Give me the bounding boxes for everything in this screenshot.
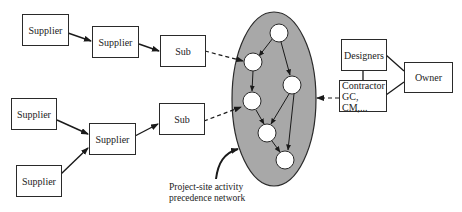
supplier-box: Supplier	[16, 165, 62, 197]
network-node	[243, 92, 261, 110]
network-node	[244, 53, 262, 71]
supplier-box: Supplier	[92, 26, 139, 58]
sub-box: Sub	[159, 103, 205, 135]
supplier-label: Supplier	[17, 109, 51, 120]
sub-label: Sub	[174, 114, 190, 125]
supplier-label: Supplier	[99, 37, 133, 48]
designers-box: Designers	[341, 39, 387, 71]
contractor-label-line1: Contractor	[342, 80, 385, 91]
supplier-box: Supplier	[11, 98, 57, 130]
network-node	[258, 124, 276, 142]
supplier-label: Supplier	[29, 25, 63, 36]
network-node	[270, 24, 288, 42]
contractor-box: Contractor GC, CM,...	[339, 80, 387, 112]
diagram-canvas	[0, 0, 462, 212]
network-caption: Project-site activity precedence network	[169, 182, 245, 204]
supplier-label: Supplier	[96, 134, 130, 145]
designers-label: Designers	[344, 50, 384, 61]
contractor-label-line2: GC, CM,...	[342, 91, 386, 113]
network-caption-line1: Project-site activity	[169, 182, 245, 193]
network-node	[276, 151, 294, 169]
supplier-box: Supplier	[89, 123, 136, 155]
sub-box: Sub	[160, 35, 206, 67]
network-node	[283, 76, 301, 94]
sub-label: Sub	[175, 46, 191, 57]
network-pointer-arrow	[216, 149, 238, 179]
owner-box: Owner	[404, 62, 453, 93]
owner-label: Owner	[415, 72, 442, 83]
network-caption-line2: precedence network	[169, 193, 245, 204]
supplier-label: Supplier	[22, 176, 56, 187]
supplier-box: Supplier	[22, 14, 69, 46]
